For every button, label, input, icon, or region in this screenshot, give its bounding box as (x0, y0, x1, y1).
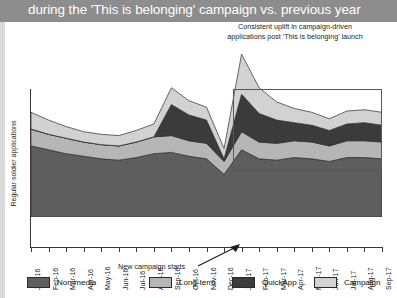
x-tick-mark (347, 248, 348, 252)
x-tick-mark (382, 248, 383, 252)
legend-label: Long-term (179, 278, 215, 287)
chart-page: during the 'This is belonging' campaign … (0, 0, 397, 298)
y-axis-label: Regular soldier applications (10, 104, 17, 224)
legend-label: Non-media (57, 278, 96, 287)
arrow-up-right-icon (196, 244, 242, 268)
chart-legend: Non-mediaLong-termQuickAppCampaign (0, 277, 397, 298)
legend-swatch (27, 277, 50, 288)
callout-annotation: Consistent uplift in campaign-driven app… (205, 22, 385, 41)
legend-swatch (149, 277, 172, 288)
x-tick-mark (277, 248, 278, 252)
x-tick-mark (49, 248, 50, 252)
legend-label: Campaign (344, 278, 380, 287)
legend-swatch (314, 277, 337, 288)
x-tick-mark (154, 248, 155, 252)
stacked-area-series (31, 49, 382, 217)
legend-item-campaign[interactable]: Campaign (314, 277, 380, 288)
x-tick-mark (364, 248, 365, 252)
x-tick-mark (119, 248, 120, 252)
x-tick-mark (312, 248, 313, 252)
x-tick-mark (329, 248, 330, 252)
page-title: during the 'This is belonging' campaign … (28, 2, 361, 17)
plot-area (31, 49, 382, 217)
callout-line-1: Consistent uplift in campaign-driven (205, 22, 385, 32)
legend-item-quickapp[interactable]: QuickApp (232, 277, 297, 288)
legend-swatch (232, 277, 255, 288)
y-axis-line (30, 89, 31, 248)
x-tick-mark (66, 248, 67, 252)
x-tick-mark (171, 248, 172, 252)
x-tick-mark (31, 248, 32, 252)
legend-item-non-media[interactable]: Non-media (27, 277, 96, 288)
x-tick-mark (101, 248, 102, 252)
chart-container: Regular soldier applications Jan-16Feb-1… (0, 40, 397, 215)
x-tick-mark (259, 248, 260, 252)
title-banner: during the 'This is belonging' campaign … (0, 0, 397, 22)
x-tick-mark (84, 248, 85, 252)
x-tick-mark (189, 248, 190, 252)
legend-item-long-term[interactable]: Long-term (149, 277, 215, 288)
campaign-start-label: New campaign starts (118, 262, 185, 271)
x-tick-mark (294, 248, 295, 252)
legend-label: QuickApp (262, 278, 297, 287)
x-tick-mark (136, 248, 137, 252)
